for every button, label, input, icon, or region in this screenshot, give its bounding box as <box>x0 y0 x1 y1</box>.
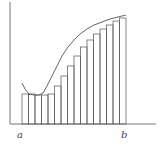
riemann-rectangle <box>74 56 81 124</box>
riemann-rectangle <box>113 21 120 124</box>
riemann-rectangle <box>29 94 36 124</box>
riemann-sum-diagram <box>0 0 163 149</box>
riemann-rectangle <box>61 76 68 124</box>
riemann-rectangle <box>87 40 94 124</box>
riemann-rectangle <box>42 95 49 124</box>
rectangles <box>22 18 126 124</box>
riemann-rectangle <box>35 95 42 124</box>
riemann-rectangle <box>55 86 62 124</box>
label-a: a <box>17 129 23 140</box>
riemann-rectangle <box>107 25 114 124</box>
riemann-rectangle <box>48 94 55 124</box>
riemann-rectangle <box>100 29 107 124</box>
label-b: b <box>121 129 127 140</box>
riemann-rectangle <box>81 47 88 124</box>
riemann-rectangle <box>120 18 127 124</box>
riemann-rectangle <box>22 94 29 124</box>
riemann-rectangle <box>94 34 101 124</box>
riemann-rectangle <box>68 66 75 124</box>
